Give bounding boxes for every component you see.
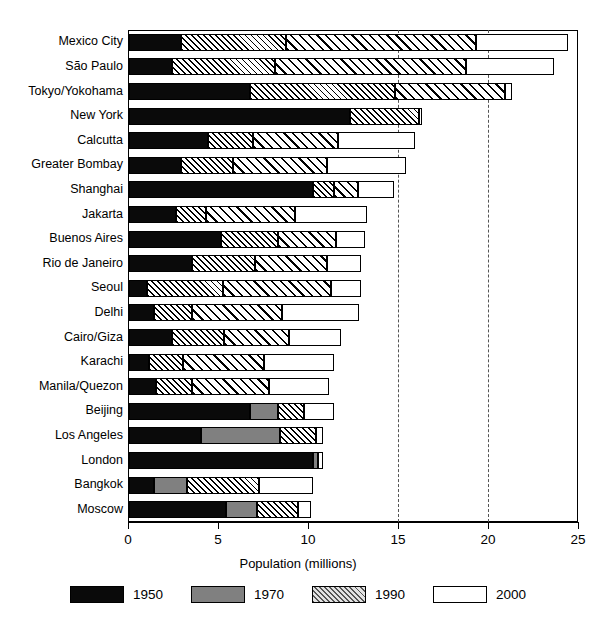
bar-row — [129, 132, 579, 149]
segment-2000 — [289, 329, 341, 346]
segment-1990 — [192, 255, 255, 272]
segment-2000 — [298, 501, 311, 518]
segment-1950 — [129, 83, 250, 100]
x-tick-label: 25 — [570, 532, 585, 547]
segment-1990b — [192, 378, 269, 395]
segment-1950 — [129, 501, 226, 518]
segment-1950 — [129, 452, 313, 469]
segment-1990b — [255, 255, 327, 272]
segment-1990 — [350, 108, 418, 125]
legend-label: 1950 — [133, 587, 163, 602]
segment-1990b — [224, 329, 289, 346]
segment-2000 — [419, 108, 423, 125]
bar-row — [129, 206, 579, 223]
bar-row — [129, 477, 579, 494]
segment-2000 — [304, 403, 335, 420]
category-label: London — [0, 454, 123, 467]
bar-row — [129, 280, 579, 297]
category-label: Cairo/Giza — [0, 331, 123, 344]
legend-label: 2000 — [496, 587, 526, 602]
bar-row — [129, 354, 579, 371]
segment-1950 — [129, 58, 172, 75]
category-label: Rio de Janeiro — [0, 257, 123, 270]
segment-1990 — [149, 354, 183, 371]
legend-item: 1950 — [70, 586, 163, 603]
category-label: Calcutta — [0, 134, 123, 147]
category-label: Beijing — [0, 404, 123, 417]
category-label: Greater Bombay — [0, 158, 123, 171]
segment-1990 — [147, 280, 223, 297]
category-label: Tokyo/Yokohama — [0, 85, 123, 98]
bar-row — [129, 427, 579, 444]
segment-2000 — [316, 427, 323, 444]
segment-2000 — [466, 58, 554, 75]
segment-1950 — [129, 181, 313, 198]
legend-label: 1970 — [254, 587, 284, 602]
category-label: Buenos Aires — [0, 232, 123, 245]
segment-1970 — [226, 501, 257, 518]
segment-1990 — [156, 378, 192, 395]
segment-1990b — [206, 206, 294, 223]
segment-1950 — [129, 280, 147, 297]
segment-2000 — [282, 304, 359, 321]
segment-1950 — [129, 132, 208, 149]
segment-2000 — [269, 378, 328, 395]
bar-row — [129, 452, 579, 469]
segment-1970 — [154, 477, 186, 494]
bar-row — [129, 231, 579, 248]
segment-1990b — [253, 132, 338, 149]
segment-2000 — [338, 132, 415, 149]
segment-1990b — [192, 304, 282, 321]
segment-1970 — [201, 427, 280, 444]
segment-2000 — [336, 231, 365, 248]
segment-1990 — [278, 403, 303, 420]
population-bar-chart: Mexico CitySão PauloTokyo/YokohamaNew Yo… — [0, 0, 596, 627]
segment-1950 — [129, 255, 192, 272]
segment-1990b — [233, 157, 327, 174]
segment-1950 — [129, 329, 172, 346]
segment-1990 — [257, 501, 298, 518]
x-tick-label: 5 — [214, 532, 222, 547]
bar-row — [129, 157, 579, 174]
category-label: Manila/Quezon — [0, 380, 123, 393]
x-tick — [308, 522, 309, 529]
x-axis-title: Population (millions) — [0, 556, 596, 571]
x-tick-label: 20 — [480, 532, 495, 547]
category-label: Los Angeles — [0, 429, 123, 442]
x-tick-label: 10 — [300, 532, 315, 547]
segment-1990 — [250, 83, 396, 100]
segment-1950 — [129, 34, 181, 51]
legend-swatch-1990 — [312, 586, 366, 603]
segment-2000 — [476, 34, 568, 51]
segment-1990b — [275, 58, 466, 75]
bar-row — [129, 304, 579, 321]
segment-1950 — [129, 206, 176, 223]
x-tick — [218, 522, 219, 529]
segment-1990 — [280, 427, 316, 444]
segment-1990 — [181, 157, 233, 174]
category-label: Jakarta — [0, 208, 123, 221]
category-label: Mexico City — [0, 35, 123, 48]
category-label: Bangkok — [0, 478, 123, 491]
x-axis-line — [128, 522, 578, 523]
segment-1990 — [208, 132, 253, 149]
legend-item: 1970 — [191, 586, 284, 603]
segment-2000 — [295, 206, 367, 223]
x-tick — [128, 522, 129, 529]
segment-1950 — [129, 304, 154, 321]
bar-row — [129, 255, 579, 272]
segment-1990b — [286, 34, 477, 51]
bar-row — [129, 34, 579, 51]
segment-1970 — [250, 403, 279, 420]
x-tick — [488, 522, 489, 529]
category-label: Delhi — [0, 306, 123, 319]
segment-2000 — [358, 181, 394, 198]
segment-2000 — [331, 280, 362, 297]
legend-item: 2000 — [433, 586, 526, 603]
legend-item: 1990 — [312, 586, 405, 603]
segment-1950 — [129, 403, 250, 420]
segment-1990 — [221, 231, 279, 248]
segment-2000 — [318, 452, 323, 469]
category-label: São Paulo — [0, 60, 123, 73]
segment-1990b — [278, 231, 336, 248]
